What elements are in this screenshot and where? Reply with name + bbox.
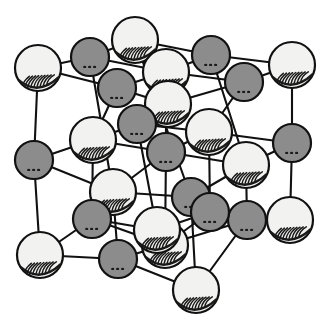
sphere-shading: [159, 161, 172, 163]
lattice-svg: [0, 0, 331, 332]
sphere-body: [191, 193, 229, 231]
sphere-body: [225, 63, 263, 101]
atom-light-sphere: [267, 197, 313, 243]
sphere-body: [228, 201, 266, 239]
sphere-body: [99, 240, 137, 278]
sphere-shading: [130, 133, 143, 135]
sphere-shading: [111, 268, 124, 270]
atom-light-sphere: [134, 207, 180, 253]
atom-light-sphere: [173, 267, 219, 313]
sphere-shading: [27, 169, 40, 171]
sphere-body: [118, 105, 156, 143]
sphere-shading: [83, 66, 96, 68]
atom-light-sphere: [17, 232, 63, 278]
sphere-shading: [85, 228, 98, 230]
atom-dark-sphere: [98, 69, 136, 107]
atom-dark-sphere: [99, 240, 137, 278]
atom-light-sphere: [70, 117, 116, 163]
sphere-shading: [110, 97, 123, 99]
sphere-body: [98, 69, 136, 107]
sphere-body: [147, 133, 185, 171]
sphere-shading: [240, 229, 253, 231]
atom-light-sphere: [269, 42, 315, 88]
sphere-body: [71, 38, 109, 76]
atom-dark-sphere: [228, 201, 266, 239]
sphere-shading: [203, 221, 216, 223]
atom-light-sphere: [223, 142, 269, 188]
atom-dark-sphere: [118, 105, 156, 143]
atom-dark-sphere: [225, 63, 263, 101]
crystal-lattice-figure: [0, 0, 331, 332]
sphere-body: [273, 124, 311, 162]
atom-dark-sphere: [15, 141, 53, 179]
sphere-shading: [204, 64, 217, 66]
atom-dark-sphere: [71, 38, 109, 76]
atom-light-sphere: [186, 109, 232, 155]
atom-dark-sphere: [191, 193, 229, 231]
atom-dark-sphere: [192, 36, 230, 74]
atom-dark-sphere: [273, 124, 311, 162]
atom-light-sphere: [15, 45, 61, 91]
sphere-body: [73, 200, 111, 238]
atom-dark-sphere: [73, 200, 111, 238]
sphere-shading: [285, 152, 298, 154]
sphere-shading: [237, 91, 250, 93]
sphere-body: [192, 36, 230, 74]
sphere-body: [15, 141, 53, 179]
atom-dark-sphere: [147, 133, 185, 171]
